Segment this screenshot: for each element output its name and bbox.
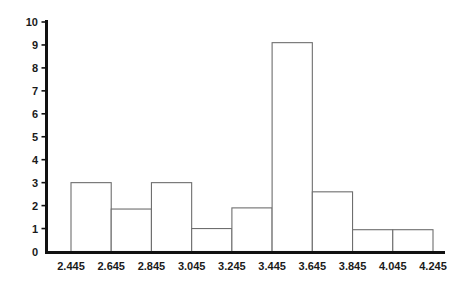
histogram-bar <box>353 230 393 252</box>
x-tick-label: 2.845 <box>138 260 166 272</box>
x-tick-label: 3.245 <box>218 260 246 272</box>
y-tick-label: 3 <box>32 177 38 189</box>
histogram-bar <box>393 230 433 252</box>
histogram-bar <box>151 183 191 252</box>
histogram-bar <box>71 183 111 252</box>
histogram-chart: 012345678910 2.4452.6452.8453.0453.2453.… <box>0 0 455 292</box>
x-tick-label: 2.645 <box>97 260 125 272</box>
x-tick-label: 3.445 <box>258 260 286 272</box>
y-tick-label: 4 <box>32 154 39 166</box>
histogram-bar <box>111 209 151 251</box>
y-tick-label: 9 <box>32 39 38 51</box>
x-tick-label: 3.045 <box>178 260 206 272</box>
x-tick-label: 4.045 <box>379 260 407 272</box>
histogram-bar <box>312 192 352 252</box>
histogram-bar <box>232 208 272 252</box>
y-tick-label: 6 <box>32 108 38 120</box>
y-tick-label: 1 <box>32 223 38 235</box>
x-tick-label: 3.845 <box>339 260 367 272</box>
x-tick-label: 2.445 <box>57 260 85 272</box>
y-tick-label: 5 <box>32 131 38 143</box>
x-tick-label: 3.645 <box>299 260 327 272</box>
y-tick-label: 0 <box>32 246 38 258</box>
y-tick-label: 7 <box>32 85 38 97</box>
y-tick-label: 8 <box>32 62 38 74</box>
histogram-bar <box>192 229 232 252</box>
chart-canvas: 012345678910 2.4452.6452.8453.0453.2453.… <box>0 0 455 292</box>
y-tick-label: 10 <box>26 16 38 28</box>
histogram-bar <box>272 43 312 252</box>
y-tick-label: 2 <box>32 200 38 212</box>
x-tick-label: 4.245 <box>419 260 447 272</box>
